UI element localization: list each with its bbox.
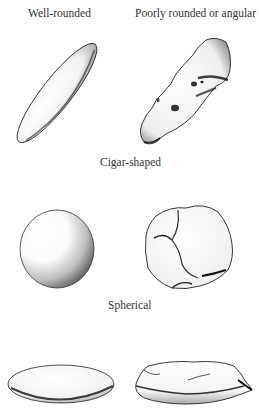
row-label-spherical: Spherical xyxy=(108,300,151,312)
row-label-cigar-shaped: Cigar-shaped xyxy=(100,157,161,169)
column-header-well-rounded: Well-rounded xyxy=(28,8,91,20)
angular-flat-slab-pebble xyxy=(130,356,256,408)
well-rounded-sphere-pebble xyxy=(18,208,98,292)
angular-elongated-pebble xyxy=(136,34,236,150)
well-rounded-disc-pebble xyxy=(5,362,117,408)
column-header-poorly-rounded: Poorly rounded or angular xyxy=(135,8,256,20)
well-rounded-cigar-pebble xyxy=(10,38,105,148)
angular-blocky-pebble xyxy=(142,200,236,294)
